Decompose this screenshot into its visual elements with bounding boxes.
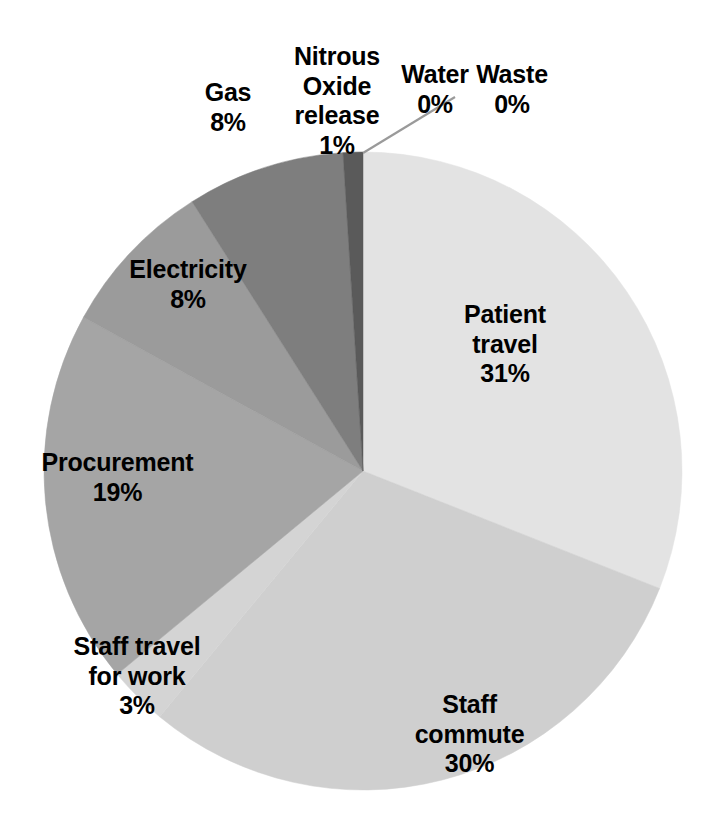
slice-label-waste: Waste 0% [463,60,561,119]
slice-label-procurement: Procurement 19% [10,448,225,507]
slice-label-staff-travel-for-work: Staff travel for work 3% [42,632,232,721]
pie-chart-figure: Patient travel 31% Water 0% Waste 0% Sta… [0,0,714,833]
slice-label-patient-travel: Patient travel 31% [425,300,585,389]
slice-label-nitrous-oxide-release: Nitrous Oxide release 1% [277,42,397,160]
slice-label-gas: Gas 8% [173,78,283,137]
slice-label-electricity: Electricity 8% [103,255,273,314]
slice-label-staff-commute: Staff commute 30% [382,690,557,779]
